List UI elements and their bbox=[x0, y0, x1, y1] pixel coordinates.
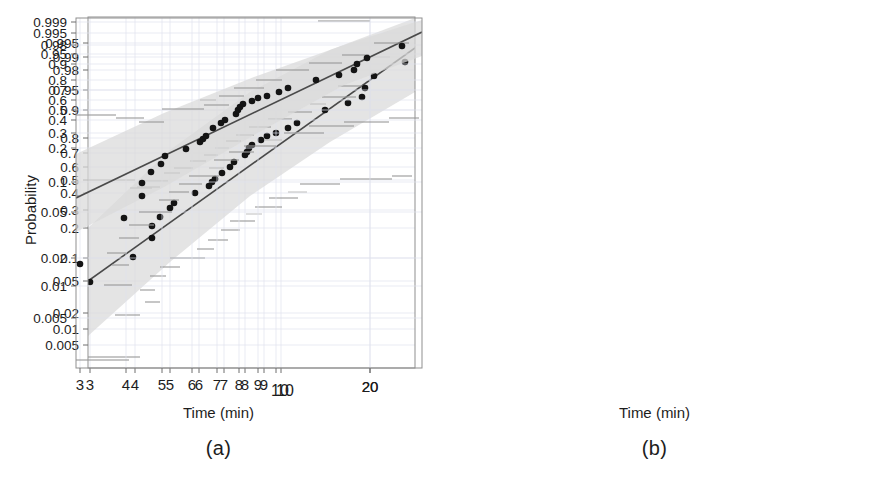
x-tick-label: 9 bbox=[254, 376, 262, 393]
y-tick-label: 0.02 bbox=[41, 251, 67, 266]
panel-caption-a: (a) bbox=[0, 437, 437, 460]
y-tick-label: 0.005 bbox=[33, 311, 67, 326]
y-tick-label: 0.2 bbox=[48, 141, 67, 156]
x-tick-label: 6 bbox=[188, 376, 196, 393]
y-tick-label: 0.9 bbox=[48, 57, 67, 72]
y-tickmarks-b bbox=[71, 22, 76, 318]
y-tick-label: 0.05 bbox=[41, 205, 67, 220]
panel-b: 0.999 0.995 0.98 0.95 0.9 0.8 0.7 0.6 0.… bbox=[436, 0, 873, 478]
panel-caption-b: (b) bbox=[436, 437, 873, 460]
y-tick-label: 0.01 bbox=[41, 279, 67, 294]
x-tick-label: 4 bbox=[122, 376, 130, 393]
x-tickmarks-b bbox=[80, 368, 370, 373]
y-tick-label: 0.3 bbox=[48, 126, 67, 141]
x-tick-label: 5 bbox=[158, 376, 166, 393]
x-tick-label: 3 bbox=[76, 376, 84, 393]
x-tick-label: 10 bbox=[271, 382, 289, 399]
x-ticklabels-b: 3 4 5 6 7 8 9 10 20 bbox=[76, 376, 379, 399]
x-axis-title-a: Time (min) bbox=[0, 404, 437, 421]
x-tick-label: 20 bbox=[362, 378, 379, 395]
x-axis-title-b: Time (min) bbox=[436, 404, 873, 421]
figure-root: 0.995 0.99 0.98 0.95 0.9 0.8 0.7 0.6 0.5… bbox=[0, 0, 873, 478]
y-ticklabels-b: 0.999 0.995 0.98 0.95 0.9 0.8 0.7 0.6 0.… bbox=[33, 15, 67, 326]
probability-plot-b: 0.999 0.995 0.98 0.95 0.9 0.8 0.7 0.6 0.… bbox=[0, 0, 437, 400]
x-tick-label: 8 bbox=[235, 376, 243, 393]
x-tick-label: 7 bbox=[213, 376, 221, 393]
y-tick-label: 0.1 bbox=[48, 175, 67, 190]
